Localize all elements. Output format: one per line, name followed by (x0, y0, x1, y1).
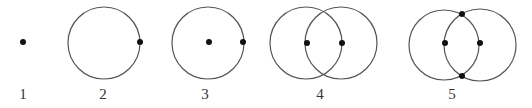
panel-label-2: 2 (93, 86, 113, 103)
panel-5 (409, 9, 516, 81)
point (477, 40, 483, 46)
panel-label-1: 1 (13, 86, 33, 103)
point (240, 39, 246, 45)
point (20, 39, 26, 45)
panel-label-3: 3 (195, 86, 215, 103)
point (459, 73, 465, 79)
point (206, 39, 212, 45)
panel-2 (68, 7, 143, 79)
point (442, 40, 448, 46)
point (304, 40, 310, 46)
point (339, 40, 345, 46)
point (459, 11, 465, 17)
panel-4 (270, 7, 377, 79)
panel-3 (172, 7, 246, 79)
panel-1 (20, 39, 26, 45)
panel-label-5: 5 (442, 86, 462, 103)
panel-label-4: 4 (310, 86, 330, 103)
point (137, 39, 143, 45)
circle (68, 7, 140, 79)
